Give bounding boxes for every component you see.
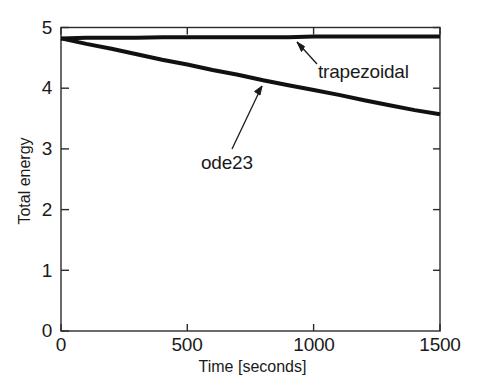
x-axis-title: Time [seconds] [175,358,330,376]
annotation-arrow-trapezoidal [297,42,317,64]
annotation-arrow-ode23 [232,86,262,149]
ytick-label-5: 5 [30,17,52,39]
xtick-label-0: 0 [41,334,81,356]
ytick-label-4: 4 [30,77,52,99]
ytick-label-1: 1 [30,260,52,282]
series-line-trapezoidal [61,37,440,39]
annotation-label-ode23: ode23 [201,152,253,174]
chart-figure: 5 4 3 2 1 0 0 500 1000 1500 Total energy… [0,0,479,392]
annotation-label-trapezoidal: trapezoidal [318,61,409,83]
xtick-label-1000: 1000 [279,334,349,356]
xtick-label-500: 500 [157,334,217,356]
xtick-label-1500: 1500 [405,334,475,356]
y-axis-title: Total energy [16,126,34,236]
